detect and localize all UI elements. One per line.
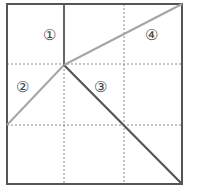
diagram: ① ② ③ ④ [0, 0, 213, 195]
segment-4 [64, 4, 182, 65]
region-label-1: ① [43, 26, 56, 44]
region-label-4: ④ [145, 26, 158, 44]
region-label-2: ② [16, 78, 29, 96]
region-label-3: ③ [94, 78, 107, 96]
